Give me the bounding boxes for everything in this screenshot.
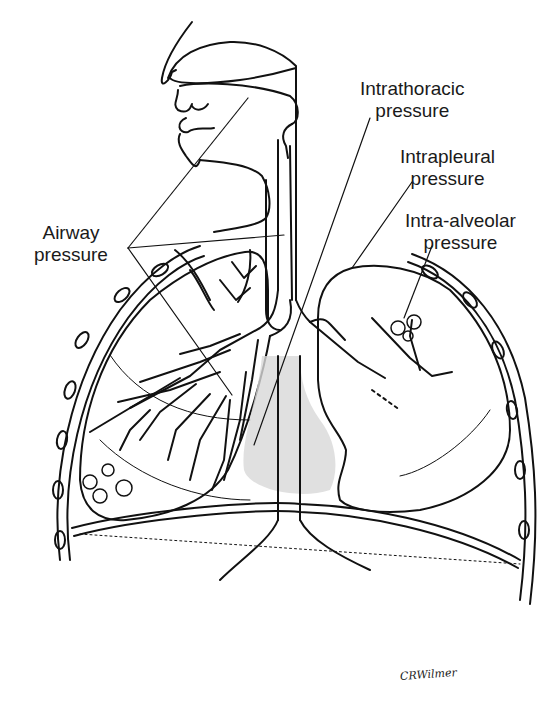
label-airway-pressure: Airway pressure — [34, 222, 108, 266]
head-outline — [162, 22, 298, 330]
leader-airway-3 — [128, 248, 232, 395]
leader-airway-1 — [128, 98, 248, 248]
label-line2: pressure — [405, 232, 516, 254]
chest-wall-right — [408, 254, 535, 604]
alveoli-right — [391, 315, 421, 341]
leader-airway-2 — [128, 235, 284, 248]
diaphragm — [72, 503, 520, 580]
label-line2: pressure — [34, 244, 108, 266]
alveoli-left — [83, 464, 132, 503]
label-line2: pressure — [360, 100, 465, 122]
label-intrathoracic-pressure: Intrathoracic pressure — [360, 78, 465, 122]
label-line2: pressure — [400, 168, 495, 190]
chest-wall-left — [53, 246, 204, 560]
leader-intrathoracic — [254, 118, 370, 445]
left-lung — [80, 252, 270, 520]
label-line1: Intrapleural — [400, 146, 495, 168]
label-intrapleural-pressure: Intrapleural pressure — [400, 146, 495, 190]
respiratory-diagram — [0, 0, 556, 715]
leader-intrapleural — [352, 182, 412, 268]
label-line1: Intra-alveolar — [405, 210, 516, 232]
label-intra-alveolar-pressure: Intra-alveolar pressure — [405, 210, 516, 254]
label-line1: Intrathoracic — [360, 78, 465, 100]
mediastinum-stipple — [243, 356, 335, 520]
label-line1: Airway — [34, 222, 108, 244]
airway-tree — [90, 250, 385, 490]
